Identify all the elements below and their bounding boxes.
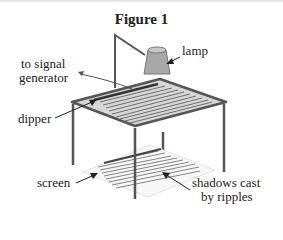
ripple-tank bbox=[72, 79, 226, 126]
signal-arrowhead bbox=[78, 71, 84, 76]
lamp bbox=[144, 47, 170, 74]
dipper-label: dipper bbox=[18, 112, 51, 126]
shadows-label-line1: shadows cast bbox=[192, 176, 260, 190]
lamp-stand bbox=[115, 35, 145, 88]
signal-generator-label-line2: generator bbox=[19, 71, 68, 85]
signal-wire bbox=[80, 74, 132, 89]
shadows-label-line2: by ripples bbox=[201, 190, 253, 204]
screen-label: screen bbox=[37, 176, 70, 190]
signal-generator-label-line1: to signal bbox=[21, 57, 65, 71]
lamp-label: lamp bbox=[182, 44, 208, 58]
